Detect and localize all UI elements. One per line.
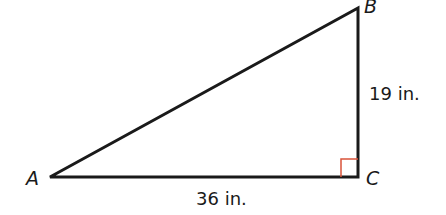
side-label-ac: 36 in.: [196, 188, 247, 209]
triangle-abc: [50, 8, 358, 177]
vertex-label-c: C: [366, 167, 380, 189]
side-label-bc: 19 in.: [369, 83, 420, 104]
right-angle-marker: [341, 159, 358, 177]
triangle-diagram: A B C 19 in. 36 in.: [0, 0, 446, 215]
vertex-label-a: A: [24, 167, 39, 189]
vertex-label-b: B: [364, 0, 377, 17]
